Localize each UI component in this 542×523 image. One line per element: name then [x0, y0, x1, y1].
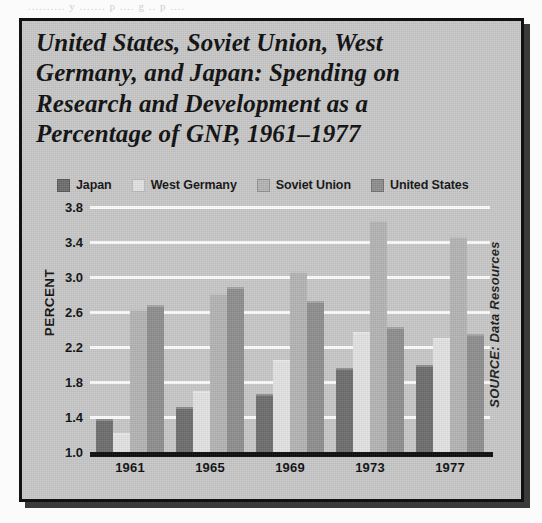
x-axis-tick-label: 1965 — [170, 460, 250, 475]
legend-label: United States — [390, 178, 469, 192]
legend-label: Japan — [76, 178, 112, 192]
bar-japan-1973 — [336, 368, 353, 452]
chart-figure: United States, Soviet Union, West German… — [19, 18, 524, 502]
y-axis-tick-label: 3.0 — [65, 270, 83, 285]
bar-soviet-union-1965 — [210, 293, 227, 452]
bar-united-states-1969 — [307, 301, 324, 452]
plot-wrapper: PERCENT SOURCE: Data Resources 1.01.41.8… — [22, 199, 521, 499]
bar-united-states-1961 — [147, 305, 164, 452]
bar-west-germany-1969 — [273, 360, 290, 452]
legend-label: West Germany — [151, 178, 237, 192]
bar-group-1969 — [250, 207, 330, 452]
legend-label: Soviet Union — [276, 178, 351, 192]
bar-soviet-union-1973 — [370, 220, 387, 452]
bar-west-germany-1977 — [433, 338, 450, 452]
legend-swatch-icon — [57, 179, 70, 192]
title-line-1: United States, Soviet Union, West — [36, 29, 383, 56]
page-bleed-text: .......... y ....... p .... g .. p .... — [28, 0, 498, 16]
legend-item-west-germany: West Germany — [132, 178, 237, 192]
bar-japan-1965 — [176, 407, 193, 453]
title-line-3: Research and Development as a — [36, 90, 368, 117]
y-axis-title: PERCENT — [42, 258, 57, 348]
x-axis-tick-label: 1969 — [250, 460, 330, 475]
y-axis-tick-label: 2.2 — [65, 340, 83, 355]
x-axis-tick-label: 1977 — [410, 460, 490, 475]
legend-item-japan: Japan — [57, 178, 112, 192]
plot-area: 1.01.41.82.22.63.03.43.8 — [90, 207, 490, 452]
y-axis-tick-label: 1.8 — [65, 375, 83, 390]
bar-group-1973 — [330, 207, 410, 452]
bar-group-1961 — [90, 207, 170, 452]
bar-united-states-1965 — [227, 287, 244, 452]
page-title: United States, Soviet Union, West German… — [36, 28, 491, 149]
bar-soviet-union-1969 — [290, 271, 307, 452]
x-axis-labels: 19611965196919731977 — [90, 460, 490, 475]
bar-west-germany-1965 — [193, 391, 210, 452]
x-axis-tick-label: 1961 — [90, 460, 170, 475]
bar-west-germany-1973 — [353, 332, 370, 452]
chart-title-block: United States, Soviet Union, West German… — [36, 28, 491, 149]
legend-item-soviet-union: Soviet Union — [257, 178, 351, 192]
bar-soviet-union-1961 — [130, 309, 147, 452]
bar-united-states-1977 — [467, 334, 484, 452]
legend-swatch-icon — [371, 179, 384, 192]
y-axis-tick-label: 2.6 — [65, 305, 83, 320]
y-axis-tick-label: 3.8 — [65, 200, 83, 215]
bar-united-states-1973 — [387, 327, 404, 452]
legend-swatch-icon — [257, 179, 270, 192]
bar-group-1977 — [410, 207, 490, 452]
chart-legend: JapanWest GermanySoviet UnionUnited Stat… — [57, 176, 497, 194]
title-line-4: Percentage of GNP, 1961–1977 — [36, 120, 361, 147]
bar-group-1965 — [170, 207, 250, 452]
bar-japan-1969 — [256, 394, 273, 452]
bar-japan-1961 — [96, 419, 113, 452]
x-axis-tick-label: 1973 — [330, 460, 410, 475]
y-axis-tick-label: 3.4 — [65, 235, 83, 250]
bar-soviet-union-1977 — [450, 236, 467, 452]
bars-layer — [90, 207, 490, 452]
bar-west-germany-1961 — [113, 433, 130, 452]
title-line-2: Germany, and Japan: Spending on — [36, 59, 400, 86]
legend-swatch-icon — [132, 179, 145, 192]
y-axis-tick-label: 1.0 — [65, 445, 83, 460]
page-root: .......... y ....... p .... g .. p .... … — [0, 0, 542, 523]
y-axis-tick-label: 1.4 — [65, 410, 83, 425]
x-axis-line — [90, 452, 493, 457]
legend-item-united-states: United States — [371, 178, 469, 192]
bar-japan-1977 — [416, 365, 433, 452]
